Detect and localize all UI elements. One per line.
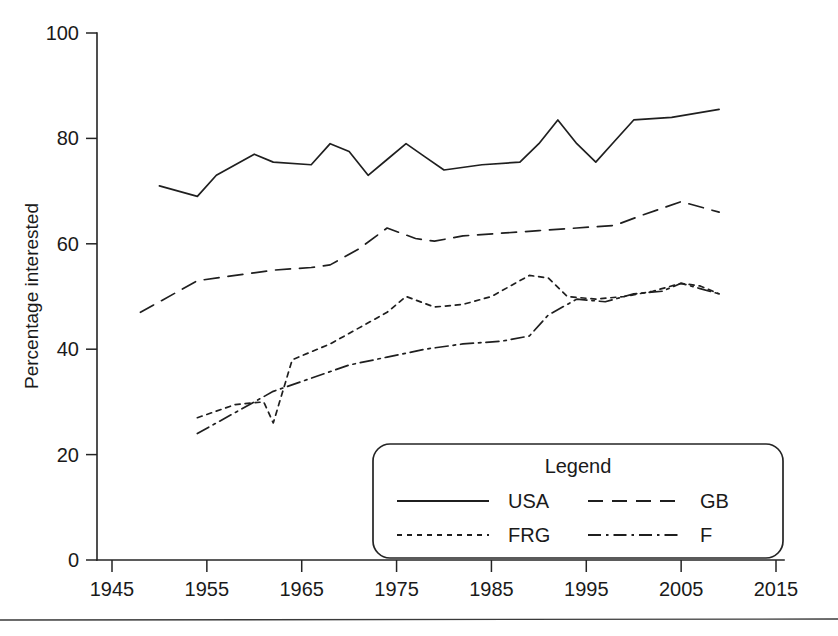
chart-figure: Percentage interested 020406080100 19451… — [0, 0, 838, 636]
page-divider — [0, 619, 838, 620]
y-tick-label: 20 — [57, 444, 79, 466]
y-tick-label: 100 — [46, 22, 79, 44]
y-tick-label: 0 — [68, 549, 79, 571]
y-tick-label: 80 — [57, 127, 79, 149]
series-line-usa — [159, 109, 719, 196]
legend-label-frg: FRG — [508, 524, 550, 546]
x-tick-label: 1975 — [374, 578, 419, 600]
chart-legend: Legend USAGBFRGF — [373, 444, 783, 558]
y-tick-label: 40 — [57, 338, 79, 360]
x-tick-label: 2015 — [754, 578, 799, 600]
x-tick-label: 1995 — [564, 578, 609, 600]
y-tick-label: 60 — [57, 233, 79, 255]
series-line-frg — [197, 275, 719, 423]
y-axis-title: Percentage interested — [21, 203, 42, 389]
x-tick-label: 2005 — [659, 578, 704, 600]
x-tick-label: 1985 — [469, 578, 514, 600]
x-tick-label: 1945 — [90, 578, 135, 600]
line-chart: Percentage interested 020406080100 19451… — [0, 0, 838, 636]
series-group — [140, 109, 719, 433]
legend-label-usa: USA — [508, 490, 550, 512]
legend-label-gb: GB — [700, 490, 729, 512]
series-line-f — [197, 283, 719, 433]
x-axis-ticks: 19451955196519751985199520052015 — [90, 560, 799, 600]
legend-title: Legend — [545, 455, 612, 477]
x-tick-label: 1955 — [185, 578, 230, 600]
y-axis-ticks: 020406080100 — [46, 22, 97, 571]
legend-label-f: F — [700, 524, 712, 546]
x-tick-label: 1965 — [279, 578, 324, 600]
